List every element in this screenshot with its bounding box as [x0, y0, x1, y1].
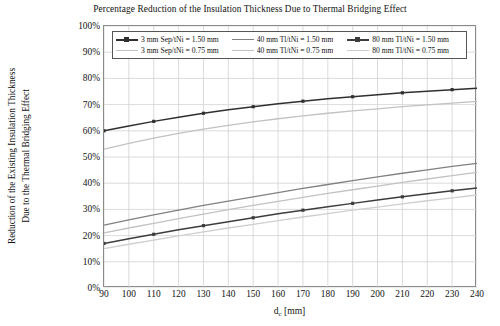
x-tick-label: 230	[445, 289, 459, 299]
plot-area: 0%10%20%30%40%50%60%70%80%90%100% 901001…	[103, 25, 476, 287]
x-tick-label: 120	[172, 289, 186, 299]
x-tick-label: 220	[420, 289, 434, 299]
y-tick-label: 20%	[83, 231, 100, 241]
series-marker-4	[301, 209, 304, 212]
y-tick-label: 70%	[83, 100, 100, 110]
chart-legend: 3 mm Sep/tNi = 1.50 mm40 mm Tl/tNi = 1.5…	[112, 31, 467, 59]
legend-swatch-icon	[116, 46, 138, 55]
legend-item[interactable]: 80 mm Tl/tNi = 0.75 mm	[347, 45, 463, 56]
legend-item[interactable]: 3 mm Sep/tNi = 0.75 mm	[116, 45, 232, 56]
legend-label: 3 mm Sep/tNi = 0.75 mm	[141, 45, 219, 56]
series-marker-4	[451, 189, 454, 192]
legend-label: 40 mm Tl/tNi = 0.75 mm	[257, 45, 334, 56]
x-tick-label: 150	[246, 289, 260, 299]
y-tick-label: 30%	[83, 204, 100, 214]
legend-swatch-icon	[232, 35, 254, 44]
series-marker-0	[451, 88, 454, 91]
grid-lines	[104, 26, 477, 288]
series-line-4	[104, 188, 477, 244]
series-marker-0	[104, 129, 106, 132]
x-tick-label: 140	[221, 289, 235, 299]
y-tick-label: 100%	[78, 21, 100, 31]
series-marker-4	[202, 224, 205, 227]
legend-label: 80 mm Tl/tNi = 1.50 mm	[372, 34, 449, 45]
y-tick-label: 90%	[83, 47, 100, 57]
series-marker-0	[202, 112, 205, 115]
x-tick-label: 130	[196, 289, 210, 299]
x-tick-label: 180	[321, 289, 335, 299]
legend-swatch-icon	[232, 46, 254, 55]
x-axis-title: dc [mm]	[103, 305, 476, 318]
x-tick-label: 210	[395, 289, 409, 299]
legend-item[interactable]: 40 mm Tl/tNi = 0.75 mm	[232, 45, 348, 56]
series-marker-4	[401, 195, 404, 198]
series-marker-0	[301, 100, 304, 103]
series-marker-4	[351, 202, 354, 205]
data-series-group	[104, 88, 477, 249]
series-marker-4	[252, 216, 255, 219]
y-axis-title-line-2: Due to the Thermal Bridging Effect	[21, 89, 31, 223]
series-marker-0	[351, 95, 354, 98]
y-tick-label: 50%	[83, 152, 100, 162]
x-tick-label: 170	[296, 289, 310, 299]
series-marker-4	[104, 242, 106, 245]
series-marker-0	[401, 91, 404, 94]
plot-canvas	[104, 26, 477, 288]
legend-label: 3 mm Sep/tNi = 1.50 mm	[141, 34, 219, 45]
y-axis-title: Reduction of the Existing Insulation Thi…	[2, 25, 38, 287]
legend-row: 3 mm Sep/tNi = 0.75 mm40 mm Tl/tNi = 0.7…	[116, 45, 463, 56]
x-axis-title-unit: [mm]	[284, 305, 305, 316]
legend-label: 80 mm Tl/tNi = 0.75 mm	[372, 45, 449, 56]
x-tick-label: 100	[122, 289, 136, 299]
legend-label: 40 mm Tl/tNi = 1.50 mm	[257, 34, 334, 45]
series-line-1	[104, 101, 477, 149]
y-tick-label: 60%	[83, 126, 100, 136]
legend-item[interactable]: 40 mm Tl/tNi = 1.50 mm	[232, 34, 348, 45]
chart-figure: Percentage Reduction of the Insulation T…	[0, 0, 500, 326]
x-tick-label: 240	[470, 289, 484, 299]
series-line-3	[104, 172, 477, 233]
chart-title: Percentage Reduction of the Insulation T…	[0, 4, 500, 14]
y-tick-label: 80%	[83, 73, 100, 83]
y-tick-label: 0%	[88, 283, 101, 293]
y-tick-label: 40%	[83, 178, 100, 188]
x-tick-label: 90	[99, 289, 108, 299]
x-tick-label: 110	[147, 289, 161, 299]
legend-row: 3 mm Sep/tNi = 1.50 mm40 mm Tl/tNi = 1.5…	[116, 34, 463, 45]
legend-item[interactable]: 3 mm Sep/tNi = 1.50 mm	[116, 34, 232, 45]
legend-item[interactable]: 80 mm Tl/tNi = 1.50 mm	[347, 34, 463, 45]
legend-swatch-icon	[116, 35, 138, 44]
legend-swatch-icon	[347, 35, 369, 44]
x-tick-label: 160	[271, 289, 285, 299]
y-tick-label: 10%	[83, 257, 100, 267]
series-marker-0	[152, 120, 155, 123]
y-axis-title-line-1: Reduction of the Existing Insulation Thi…	[7, 68, 17, 244]
series-marker-4	[152, 233, 155, 236]
x-axis-title-sub: c	[278, 310, 281, 318]
legend-swatch-icon	[347, 46, 369, 55]
series-line-0	[104, 88, 477, 130]
x-tick-label: 190	[346, 289, 360, 299]
series-marker-0	[252, 105, 255, 108]
x-tick-label: 200	[371, 289, 385, 299]
